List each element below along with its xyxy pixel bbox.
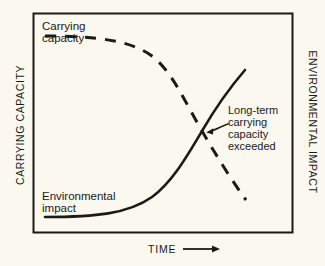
right-axis-label: ENVIRONMENTAL IMPACT [307,50,319,193]
carrying-capacity-label-line1: Carrying [42,20,85,32]
bottom-axis-label: TIME [148,243,176,255]
carrying-capacity-curve [45,36,246,200]
annotation-line-2: carrying [228,116,267,128]
diagram-canvas: Carrying capacity Environmental impact L… [0,0,325,266]
carrying-capacity-label-line2: capacity [42,32,84,44]
annotation-arrowhead-icon [206,128,213,134]
left-axis-label: CARRYING CAPACITY [14,65,26,185]
carrying-capacity-diagram: Carrying capacity Environmental impact L… [0,0,325,266]
environmental-impact-label-line2: impact [42,202,77,214]
time-arrowhead-icon [212,245,220,252]
environmental-impact-label-line1: Environmental [42,190,116,202]
annotation-line-4: exceeded [228,140,276,152]
annotation-line-1: Long-term [228,104,278,116]
annotation-line-3: capacity [228,128,269,140]
